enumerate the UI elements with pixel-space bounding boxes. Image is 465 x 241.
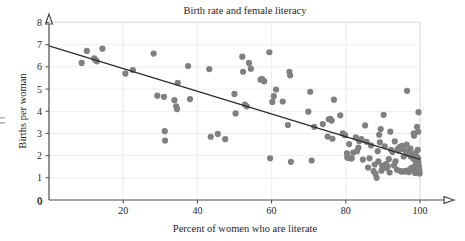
data-point — [162, 128, 168, 134]
x-tick-label-100: 100 — [413, 205, 428, 216]
x-tick-label-40: 40 — [192, 205, 202, 216]
data-point — [392, 158, 398, 164]
page-edge-artifact — [0, 117, 5, 119]
data-point — [99, 46, 105, 52]
data-point — [329, 117, 335, 123]
data-point — [267, 155, 273, 161]
data-point — [233, 110, 239, 116]
data-point — [285, 122, 291, 128]
data-point — [337, 112, 343, 118]
data-point — [154, 93, 160, 99]
data-point — [320, 121, 326, 127]
page-edge-artifact-secondary — [0, 122, 5, 124]
data-point — [240, 69, 246, 75]
chart-title: Birth rate and female literacy — [183, 5, 307, 16]
y-tick-label-5: 5 — [37, 84, 42, 95]
data-point — [417, 170, 423, 176]
data-point — [271, 93, 277, 99]
data-point — [392, 138, 398, 144]
data-point — [79, 60, 85, 66]
data-point — [269, 99, 275, 105]
y-tick-label-6: 6 — [37, 61, 42, 72]
chart-figure: Birth rate and female literacy 012345678… — [0, 0, 465, 241]
y-tick-label-8: 8 — [37, 17, 42, 28]
y-tick-label-4: 4 — [37, 106, 42, 117]
data-point — [414, 124, 420, 130]
data-point — [373, 175, 379, 181]
chart-background — [0, 0, 465, 241]
data-point — [185, 63, 191, 69]
data-point — [376, 132, 382, 138]
data-point — [362, 122, 368, 128]
data-point — [239, 54, 245, 60]
data-point — [288, 159, 294, 165]
data-point — [84, 48, 90, 54]
data-point — [280, 98, 286, 104]
y-tick-label-3: 3 — [37, 128, 42, 139]
data-point — [215, 131, 221, 137]
data-point — [385, 163, 391, 169]
data-point — [307, 89, 313, 95]
y-axis-label: Births per woman — [17, 73, 28, 149]
y-tick-label-1: 1 — [37, 172, 42, 183]
data-point — [331, 97, 337, 103]
data-point — [273, 86, 279, 92]
data-point — [187, 96, 193, 102]
data-point — [377, 139, 383, 145]
data-point — [261, 78, 267, 84]
x-tick-label-60: 60 — [267, 205, 277, 216]
data-point — [407, 145, 413, 151]
data-point — [122, 70, 128, 76]
birth-rate-literacy-scatter-plot: Birth rate and female literacy 012345678… — [0, 0, 465, 241]
x-axis-label: Percent of women who are literate — [173, 223, 318, 234]
data-point — [415, 147, 421, 153]
data-point — [161, 94, 167, 100]
y-tick-label-2: 2 — [37, 150, 42, 161]
x-tick-label-20: 20 — [118, 205, 128, 216]
data-point — [381, 112, 387, 118]
data-point — [266, 49, 272, 55]
data-point — [329, 136, 335, 142]
data-point — [231, 91, 237, 97]
data-point — [206, 66, 212, 72]
data-point — [375, 148, 381, 154]
data-point — [305, 109, 311, 115]
data-point — [404, 88, 410, 94]
data-point — [387, 129, 393, 135]
data-point — [208, 134, 214, 140]
data-point — [346, 141, 352, 147]
data-point — [355, 145, 361, 151]
x-tick-label-80: 80 — [341, 205, 351, 216]
x-tick-label-0: 0 — [38, 196, 43, 207]
data-point — [287, 72, 293, 78]
data-point — [222, 136, 228, 142]
y-tick-label-7: 7 — [37, 39, 42, 50]
data-point — [248, 66, 254, 72]
data-point — [378, 126, 384, 132]
data-point — [365, 165, 371, 171]
data-point — [386, 156, 392, 162]
data-point — [415, 109, 421, 115]
data-point — [174, 106, 180, 112]
data-point — [366, 155, 372, 161]
data-point — [309, 157, 315, 163]
data-point — [171, 97, 177, 103]
data-point — [360, 157, 366, 163]
data-point — [151, 50, 157, 56]
data-point — [349, 155, 355, 161]
data-point — [162, 137, 168, 143]
data-point — [246, 60, 252, 66]
data-point — [386, 169, 392, 175]
